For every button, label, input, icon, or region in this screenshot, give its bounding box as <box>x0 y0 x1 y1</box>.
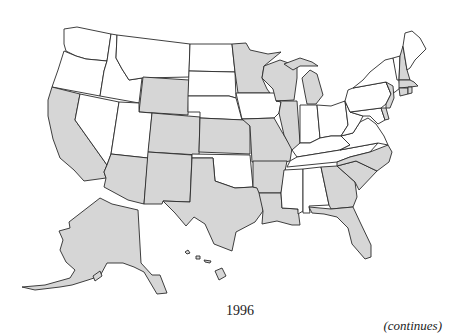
state-IN <box>300 105 320 143</box>
state-RI <box>408 87 412 94</box>
state-KS <box>199 118 250 154</box>
state-SD <box>188 71 236 98</box>
us-states-map <box>0 0 451 335</box>
continues-label: (continues) <box>384 318 442 334</box>
state-IA <box>236 93 281 119</box>
figure-year-label: 1996 <box>226 303 254 319</box>
state-ND <box>189 44 235 72</box>
state-NM <box>144 152 192 204</box>
state-ME <box>403 31 426 70</box>
state-FL <box>309 207 371 259</box>
state-AZ <box>104 154 148 204</box>
state-HI-islands <box>185 250 211 263</box>
state-CO <box>148 113 200 155</box>
state-MS <box>281 169 303 214</box>
state-CT <box>399 88 408 96</box>
state-HI <box>215 268 226 280</box>
state-WY <box>139 77 189 115</box>
state-PA <box>345 82 391 112</box>
state-MT <box>116 35 190 80</box>
